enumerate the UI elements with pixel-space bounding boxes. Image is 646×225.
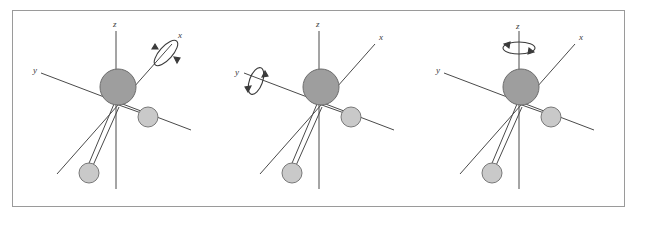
axis-label-z: z <box>315 19 320 29</box>
atom-central <box>303 69 339 105</box>
axis-label-z: z <box>112 19 117 29</box>
axis-label-y: y <box>32 65 37 75</box>
axis-label-y: y <box>435 65 440 75</box>
panel-rotation-z: z y x <box>418 11 622 206</box>
axis-label-z: z <box>515 21 520 31</box>
bond-central-to-lower-second <box>294 107 322 170</box>
panel-rotation-y: z y x <box>218 11 422 206</box>
bond-central-to-lower-second <box>494 107 522 170</box>
panel-rotation-x: z y x <box>15 11 219 206</box>
atom-central <box>503 69 539 105</box>
atom-right <box>541 107 561 127</box>
figure-frame: z y x z y x <box>12 10 625 207</box>
bond-central-to-lower-second <box>91 107 119 170</box>
axis-label-x: x <box>578 32 583 42</box>
atom-lower-left <box>482 163 502 183</box>
atom-central <box>100 69 136 105</box>
atom-right <box>138 107 158 127</box>
rotation-arrow-x <box>150 37 181 69</box>
atom-right <box>341 107 361 127</box>
axis-label-y: y <box>234 67 239 77</box>
axis-label-x: x <box>378 32 383 42</box>
atom-lower-left <box>282 163 302 183</box>
axis-label-x: x <box>177 30 182 40</box>
atom-lower-left <box>79 163 99 183</box>
